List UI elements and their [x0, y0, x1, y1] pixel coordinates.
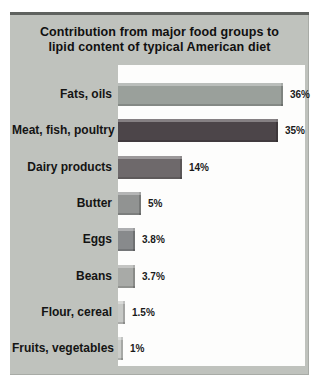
- bar: [118, 265, 135, 288]
- value-label: 3.7%: [142, 265, 165, 288]
- bar: [118, 337, 123, 360]
- bar: [118, 156, 182, 179]
- bar-row: Flour, cereal 1.5%: [10, 301, 309, 324]
- category-label: Butter: [12, 192, 112, 215]
- chart-title-line1: Contribution from major food groups to: [10, 25, 309, 40]
- value-label: 36%: [290, 83, 310, 106]
- category-label: Flour, cereal: [12, 301, 112, 324]
- figure-panel: Contribution from major food groups to l…: [10, 12, 309, 375]
- value-label: 1.5%: [132, 301, 155, 324]
- category-label: Eggs: [12, 228, 112, 251]
- category-label: Fats, oils: [12, 83, 112, 106]
- bar: [118, 192, 141, 215]
- category-label: Fruits, vegetables: [12, 337, 112, 360]
- value-label: 5%: [148, 192, 162, 215]
- category-label: Meat, fish, poultry: [12, 119, 112, 142]
- value-label: 1%: [130, 337, 144, 360]
- bar: [118, 228, 135, 251]
- bar-row: Dairy products 14%: [10, 156, 309, 179]
- chart-title-line2: lipid content of typical American diet: [10, 40, 309, 55]
- bar: [118, 83, 283, 106]
- bar: [118, 301, 125, 324]
- bar: [118, 119, 278, 142]
- bar-row: Fats, oils 36%: [10, 83, 309, 106]
- bar-row: Eggs 3.8%: [10, 228, 309, 251]
- bar-row: Beans 3.7%: [10, 265, 309, 288]
- value-label: 14%: [189, 156, 209, 179]
- value-label: 3.8%: [142, 228, 165, 251]
- bar-row: Fruits, vegetables 1%: [10, 337, 309, 360]
- bar-row: Meat, fish, poultry 35%: [10, 119, 309, 142]
- category-label: Beans: [12, 265, 112, 288]
- bar-row: Butter 5%: [10, 192, 309, 215]
- category-label: Dairy products: [12, 156, 112, 179]
- chart-title: Contribution from major food groups to l…: [10, 25, 309, 55]
- value-label: 35%: [285, 119, 305, 142]
